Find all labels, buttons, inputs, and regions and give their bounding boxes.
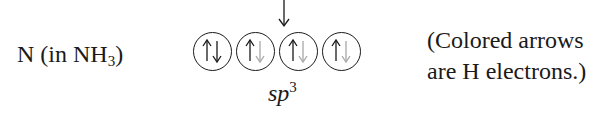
legend-note-line-2: are H electrons.) [427,56,586,87]
spin-down-arrow-icon [342,41,350,62]
orbital-3 [279,32,318,71]
spin-down-arrow-icon [213,41,221,62]
spin-down-arrow-icon [256,41,264,62]
spin-up-arrow-icon [203,40,211,61]
hybridization-superscript: 3 [289,79,297,95]
atom-label: N (in NH3) [17,41,123,68]
legend-note: (Colored arrows are H electrons.) [427,25,586,87]
orbital-diagram [193,32,361,71]
spin-down-arrow-icon [299,41,307,62]
hybridization-label: sp3 [268,80,297,107]
atom-label-text: N (in NH [17,41,108,67]
orbital-1 [193,32,232,71]
spin-up-arrow-icon [289,40,297,61]
down-arrow-icon [276,0,292,28]
orbital-4 [322,32,361,71]
spin-up-arrow-icon [332,40,340,61]
legend-note-line-1: (Colored arrows [427,25,586,56]
orbital-2 [236,32,275,71]
spin-up-arrow-icon [246,40,254,61]
atom-label-suffix: ) [115,41,123,67]
hybridization-base: sp [268,80,289,106]
